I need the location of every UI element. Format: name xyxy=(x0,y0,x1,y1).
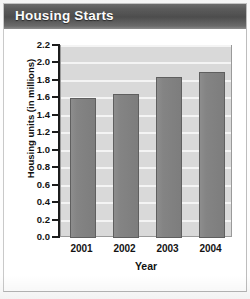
y-axis-tick xyxy=(52,131,59,133)
y-axis-tick xyxy=(52,149,59,151)
plot-area xyxy=(60,45,232,237)
y-axis-tick xyxy=(52,219,59,221)
y-axis-tick xyxy=(52,236,59,238)
y-axis-tick-label: 0.0 xyxy=(4,231,50,242)
x-axis-tick-label: 2003 xyxy=(146,243,190,254)
y-axis-tick-label: 2.0 xyxy=(4,56,50,67)
housing-starts-figure: Housing Starts Housing units (in million… xyxy=(0,0,250,299)
y-axis-tick-labels: 0.00.20.40.60.81.01.21.41.61.82.02.2 xyxy=(4,29,50,259)
gridline xyxy=(61,62,231,64)
y-axis-tick xyxy=(52,96,59,98)
y-axis-tick xyxy=(52,79,59,81)
y-axis-tick-label: 1.8 xyxy=(4,74,50,85)
y-axis-tick xyxy=(52,166,59,168)
chart-plot-region: Housing units (in millions) 0.00.20.40.6… xyxy=(4,29,246,291)
y-axis-tick-label: 1.2 xyxy=(4,126,50,137)
x-axis-tick-label: 2004 xyxy=(189,243,233,254)
y-axis-tick xyxy=(52,201,59,203)
y-axis-tick-label: 1.0 xyxy=(4,144,50,155)
bar xyxy=(156,77,182,238)
bar xyxy=(199,72,225,238)
y-axis-tick-label: 0.4 xyxy=(4,196,50,207)
y-axis-tick-label: 0.6 xyxy=(4,179,50,190)
y-axis-tick xyxy=(52,61,59,63)
y-axis-tick-label: 1.4 xyxy=(4,109,50,120)
y-axis-tick-label: 0.8 xyxy=(4,161,50,172)
chart-title: Housing Starts xyxy=(15,8,114,23)
chart-title-bar: Housing Starts xyxy=(4,4,246,29)
x-axis-label: Year xyxy=(60,260,232,272)
y-axis-tick-label: 2.2 xyxy=(4,39,50,50)
bar xyxy=(113,94,139,238)
y-axis-tick xyxy=(52,114,59,116)
x-axis-tick-label: 2001 xyxy=(60,243,104,254)
y-axis-line xyxy=(58,44,60,238)
x-axis-tick-label: 2002 xyxy=(103,243,147,254)
y-axis-tick xyxy=(52,44,59,46)
y-axis-tick-label: 1.6 xyxy=(4,91,50,102)
bar xyxy=(70,98,96,238)
y-axis-tick-label: 0.2 xyxy=(4,214,50,225)
y-axis-tick xyxy=(52,184,59,186)
gridline xyxy=(61,45,231,47)
